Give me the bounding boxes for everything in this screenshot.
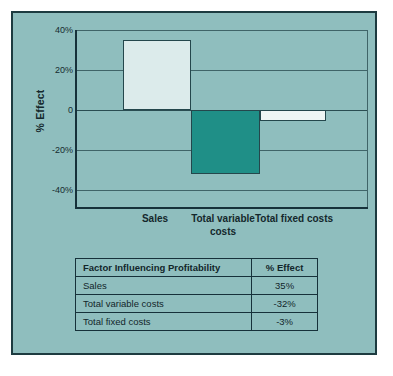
cell-factor: Total variable costs [76, 295, 252, 313]
table-row: Sales 35% [76, 277, 318, 295]
x-axis-category-labels: Sales Total variable costs Total fixed c… [75, 213, 368, 259]
factor-effect-table: Factor Influencing Profitability % Effec… [75, 258, 318, 331]
y-tick-label: -40% [29, 185, 73, 195]
cell-effect: 35% [252, 277, 318, 295]
table-header-row: Factor Influencing Profitability % Effec… [76, 259, 318, 277]
gridline-20 [77, 70, 368, 71]
y-tick-label: 0 [29, 105, 73, 115]
table-row: Total fixed costs -3% [76, 313, 318, 331]
cell-effect: -32% [252, 295, 318, 313]
column-header-effect: % Effect [252, 259, 318, 277]
y-tick-label: -20% [29, 145, 73, 155]
bar-chart: % Effect 40% 20% 0 -20% -40% [13, 13, 379, 253]
bar-total-variable-costs [191, 110, 260, 174]
x-label-total-fixed-costs: Total fixed costs [251, 213, 337, 226]
table-row: Total variable costs -32% [76, 295, 318, 313]
cell-factor: Total fixed costs [76, 313, 252, 331]
y-tick-label: 20% [29, 65, 73, 75]
bar-sales [123, 40, 191, 110]
gridline-neg40 [77, 190, 368, 191]
cell-factor: Sales [76, 277, 252, 295]
gridline-40 [77, 30, 368, 31]
column-header-factor: Factor Influencing Profitability [76, 259, 252, 277]
y-axis-tick-labels: 40% 20% 0 -20% -40% [25, 13, 73, 213]
bar-total-fixed-costs [260, 110, 326, 121]
plot-area [75, 30, 368, 209]
figure-panel: % Effect 40% 20% 0 -20% -40% [11, 11, 377, 355]
cell-effect: -3% [252, 313, 318, 331]
y-tick-label: 40% [29, 25, 73, 35]
